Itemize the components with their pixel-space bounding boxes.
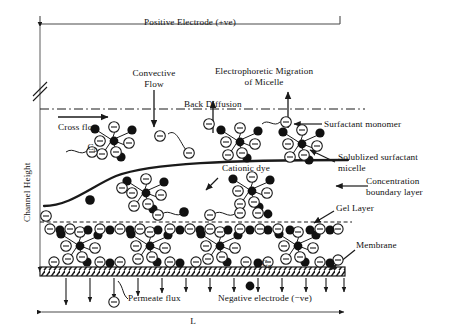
micelle-boundary-2 <box>228 172 274 212</box>
free-monomer-6 <box>117 183 128 194</box>
electrophoretic-migration-label: Electrophoretic Migration of Micelle <box>196 66 332 87</box>
back-diffusion-label: Back Diffusion <box>184 99 242 110</box>
c-gel-label: Cg <box>252 247 271 282</box>
c-zero-sub: 0 <box>94 146 97 153</box>
gel-layer-micelles <box>45 224 343 268</box>
solublized-micelle-label: Solublized surfactant micelle <box>338 152 460 173</box>
free-monomer-3 <box>204 119 215 130</box>
cationic-dye-label: Cationic dye <box>222 163 270 174</box>
channel-height-axis <box>33 27 47 272</box>
channel-height-label: Channel Height <box>22 163 33 222</box>
concentration-boundary-layer-label: Concentration boundary layer <box>366 176 462 197</box>
free-monomer-2 <box>155 131 195 159</box>
c-gel-sub: g <box>268 262 271 269</box>
permeated-monomer <box>109 281 128 307</box>
cationic-dye-leader <box>206 178 218 190</box>
micelle-bulk-2 <box>216 123 262 163</box>
membrane-label: Membrane <box>356 240 397 251</box>
convective-flow-label: Convective Flow <box>116 68 192 89</box>
free-monomer-5 <box>205 208 273 221</box>
free-dye-1 <box>85 195 95 205</box>
negative-electrode-label: Negative electrode (−ve) <box>218 293 312 304</box>
permeated-dye-dot <box>246 282 255 291</box>
gel-layer-leader <box>314 211 334 223</box>
gel-layer-label: Gel Layer <box>336 203 374 214</box>
micelle-boundary-1 <box>122 174 168 214</box>
membrane-bar <box>40 267 345 276</box>
surfactant-monomer-label: Surfactant monomer <box>324 119 401 130</box>
positive-electrode-label: Positive Electrode (+ve) <box>120 17 260 28</box>
free-monomer-7 <box>41 211 52 222</box>
permeate-flux-label: Permeate flux <box>128 293 181 304</box>
c-zero-label: C0 <box>78 131 97 166</box>
figure-canvas: Positive Electrode (+ve) Convective Flow… <box>0 0 462 335</box>
length-label: L <box>176 316 210 327</box>
